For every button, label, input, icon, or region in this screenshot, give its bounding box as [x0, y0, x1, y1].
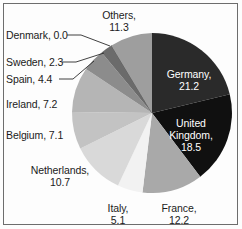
slice-label-others-name: Others,	[88, 9, 150, 21]
slice-label-italy: Italy, 5.1	[100, 202, 136, 226]
slice-label-netherlands-value: 10.7	[21, 176, 99, 188]
slice-label-germany-name: Germany,	[158, 68, 220, 80]
slice-label-italy-value: 5.1	[100, 214, 136, 226]
slice-label-france: France, 12.2	[155, 202, 203, 226]
slice-label-spain: Spain, 4.4	[6, 73, 52, 85]
slice-label-france-value: 12.2	[155, 214, 203, 226]
slice-label-germany: Germany, 21.2	[158, 68, 220, 92]
slice-label-belgium: Belgium, 7.1	[6, 129, 63, 141]
pie-chart-figure: Others, 11.3 Denmark, 0.0 Sweden, 2.3 Sp…	[0, 0, 242, 229]
slice-label-france-name: France,	[155, 202, 203, 214]
slice-label-ireland: Ireland, 7.2	[6, 98, 57, 110]
slice-label-uk-value: 18.5	[160, 141, 222, 153]
slice-label-others: Others, 11.3	[88, 9, 150, 33]
leader-line-denmark	[67, 35, 110, 46]
slice-label-italy-name: Italy,	[100, 202, 136, 214]
slice-label-germany-value: 21.2	[158, 80, 220, 92]
slice-label-netherlands: Netherlands, 10.7	[21, 164, 99, 188]
slice-label-denmark: Denmark, 0.0	[6, 29, 68, 41]
slice-label-netherlands-name: Netherlands,	[21, 164, 99, 176]
slice-label-sweden: Sweden, 2.3	[6, 56, 63, 68]
slice-label-others-value: 11.3	[88, 21, 150, 33]
slice-label-uk-line1: United	[160, 117, 222, 129]
slice-label-uk-line2: Kingdom,	[160, 129, 222, 141]
slice-label-united-kingdom: United Kingdom, 18.5	[160, 117, 222, 153]
